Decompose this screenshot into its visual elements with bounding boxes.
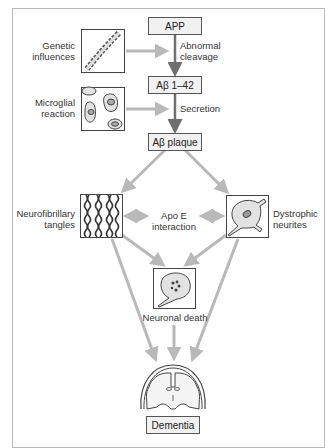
label-line: cleavage	[180, 51, 221, 62]
label-neuronal-death: Neuronal death	[140, 312, 210, 323]
label-line: interaction	[149, 221, 199, 232]
label-microglial-reaction: Microglial reaction	[35, 97, 75, 119]
label-line: Apo E	[149, 210, 199, 221]
label-line: Dystrophic	[273, 208, 318, 219]
label-line: Genetic	[32, 40, 75, 51]
label-dystrophic-neurites: Dystrophic neurites	[273, 208, 318, 230]
label-line: Abnormal	[180, 40, 221, 51]
label-genetic-influences: Genetic influences	[32, 40, 75, 62]
label-line: Microglial	[35, 97, 75, 108]
node-abeta-1-42: Aβ 1–42	[148, 76, 202, 94]
dystrophic-neuron-icon	[227, 196, 269, 238]
brain-coronal-section-icon	[141, 365, 205, 409]
label-line: Neurofibrillary	[16, 208, 75, 219]
label-line: influences	[32, 51, 75, 62]
microglia-cells-icon	[82, 87, 125, 131]
neurofibrillary-tangles-icon	[81, 195, 123, 238]
node-abeta-plaque: Aβ plaque	[148, 133, 202, 151]
label-neurofibrillary-tangles: Neurofibrillary tangles	[16, 208, 75, 230]
label-line: neurites	[273, 219, 318, 230]
node-dementia: Dementia	[146, 416, 200, 434]
label-abnormal-cleavage: Abnormal cleavage	[180, 40, 221, 62]
label-secretion: Secretion	[180, 103, 220, 114]
label-line: reaction	[35, 108, 75, 119]
dying-neuron-icon	[154, 269, 196, 309]
label-apo-e-interaction: Apo E interaction	[149, 210, 199, 232]
node-app: APP	[148, 17, 202, 35]
label-line: tangles	[16, 219, 75, 230]
dna-helix-icon	[82, 30, 125, 73]
